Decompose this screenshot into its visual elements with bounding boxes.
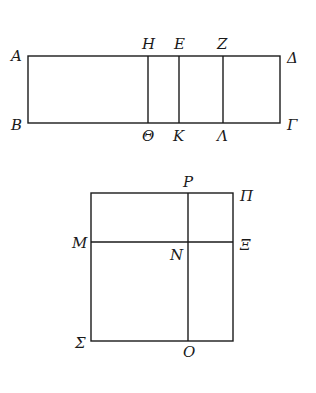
label-b: B (10, 116, 22, 134)
label-n: N (169, 246, 184, 264)
figure-1-rectangle: A B H Θ E K Z Λ Δ Γ (9, 35, 298, 145)
label-sigma: Σ (74, 334, 86, 352)
square-sigma-pi (91, 193, 233, 341)
label-theta: Θ (142, 127, 154, 145)
label-gamma: Γ (286, 116, 298, 134)
label-k: K (172, 127, 185, 145)
label-p: P (182, 173, 194, 191)
label-o: O (183, 343, 195, 361)
label-z: Z (216, 35, 228, 53)
geometry-diagram: A B H Θ E K Z Λ Δ Γ P Π M N Ξ Σ O (0, 0, 316, 393)
label-m: M (71, 234, 88, 252)
label-delta: Δ (286, 49, 298, 67)
label-a: A (9, 47, 22, 65)
label-xi: Ξ (239, 236, 251, 254)
figure-2-square: P Π M N Ξ Σ O (71, 173, 254, 361)
rectangle-abgd (28, 56, 280, 123)
label-pi: Π (239, 187, 254, 205)
label-lambda: Λ (215, 127, 228, 145)
label-h: H (141, 35, 156, 53)
label-e: E (173, 35, 185, 53)
